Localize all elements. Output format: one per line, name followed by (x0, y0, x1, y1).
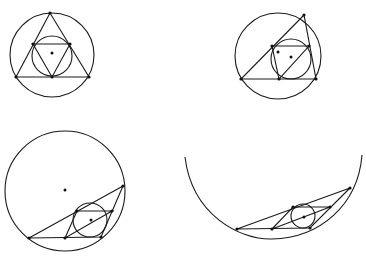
circumcircle (10, 13, 94, 97)
geometry-diagram (0, 0, 366, 260)
circumcenter-point (64, 189, 67, 192)
outer-triangle (241, 15, 316, 79)
incenter-point (290, 56, 293, 59)
figure-4 (185, 155, 362, 239)
center-point (51, 52, 54, 55)
incircle (32, 36, 72, 76)
figure-3 (5, 131, 125, 251)
incircle (271, 39, 311, 79)
incenter-point (303, 216, 306, 219)
contact-triangle (272, 207, 330, 229)
circumcircle (235, 13, 321, 99)
circumcircle-arc (185, 155, 362, 239)
figure-1 (10, 11, 94, 97)
figure-2 (235, 13, 321, 99)
incenter-point (90, 219, 93, 222)
contact-triangle (65, 211, 112, 238)
diagram-canvas (0, 0, 366, 260)
circumcenter-point (277, 51, 280, 54)
